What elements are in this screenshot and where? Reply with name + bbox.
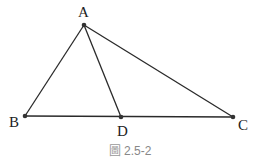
label-D: D (117, 123, 128, 139)
segment-AD (84, 25, 121, 117)
segment-BC (25, 116, 233, 117)
segment-AB (25, 25, 84, 116)
geometry-diagram: A B C D 圖 2.5-2 (0, 0, 258, 165)
point-A (82, 23, 87, 28)
label-A: A (78, 4, 89, 20)
point-C (231, 115, 236, 120)
point-B (23, 114, 28, 119)
point-D (119, 115, 124, 120)
label-C: C (238, 117, 248, 133)
label-B: B (9, 114, 19, 130)
figure-caption: 2.5-2 (124, 144, 152, 158)
segment-AC (84, 25, 233, 117)
figure-glyph-icon: 圖 (109, 144, 121, 158)
